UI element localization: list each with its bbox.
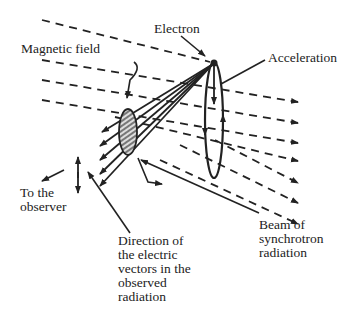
acceleration-label: Acceleration <box>268 51 337 65</box>
electron-label: Electron <box>154 22 200 36</box>
beam-cross-section <box>119 109 137 155</box>
magnetic-field-label: Magnetic field <box>21 42 100 56</box>
